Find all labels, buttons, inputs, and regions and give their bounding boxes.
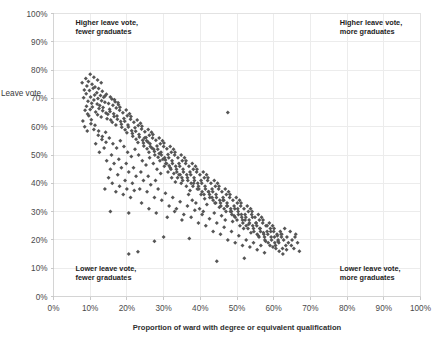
y-tick-label: 10% xyxy=(31,264,47,273)
annotation-top-right-line1: Higher leave vote, xyxy=(340,18,402,27)
y-tick-label: 100% xyxy=(27,10,48,19)
x-tick-label: 40% xyxy=(192,304,208,313)
x-tick-label: 80% xyxy=(339,304,355,313)
x-tick-label: 100% xyxy=(410,304,431,313)
x-tick-label: 50% xyxy=(229,304,245,313)
annotation-bottom-right-line2: more graduates xyxy=(340,273,395,282)
y-tick-label: 20% xyxy=(31,236,47,245)
y-tick-label: 40% xyxy=(31,179,47,188)
y-tick-label: 80% xyxy=(31,66,47,75)
annotation-bottom-left-line1: Lower leave vote, xyxy=(76,264,137,273)
x-tick-label: 30% xyxy=(155,304,171,313)
annotation-bottom-right-line1: Lower leave vote, xyxy=(340,264,401,273)
annotation-top-left-line2: fewer graduates xyxy=(76,27,132,36)
y-tick-label: 30% xyxy=(31,208,47,217)
annotation-top-right-line2: more graduates xyxy=(340,27,395,36)
scatter-chart: 0%10%20%30%40%50%60%70%80%90%100%0%10%20… xyxy=(0,0,439,344)
chart-canvas: 0%10%20%30%40%50%60%70%80%90%100%0%10%20… xyxy=(0,0,439,344)
annotation-top-left-line1: Higher leave vote, xyxy=(76,18,138,27)
y-tick-label: 50% xyxy=(31,151,47,160)
x-axis-title: Proportion of ward with degree or equiva… xyxy=(133,323,342,332)
x-tick-label: 70% xyxy=(302,304,318,313)
y-tick-label: 60% xyxy=(31,123,47,132)
x-tick-label: 20% xyxy=(119,304,135,313)
y-axis-title: Leave vote xyxy=(1,89,42,98)
x-tick-label: 0% xyxy=(48,304,60,313)
x-tick-label: 60% xyxy=(266,304,282,313)
x-tick-label: 10% xyxy=(82,304,98,313)
x-tick-label: 90% xyxy=(376,304,392,313)
y-tick-label: 0% xyxy=(36,293,48,302)
y-tick-label: 90% xyxy=(31,38,47,47)
annotation-bottom-left-line2: fewer graduates xyxy=(76,273,132,282)
